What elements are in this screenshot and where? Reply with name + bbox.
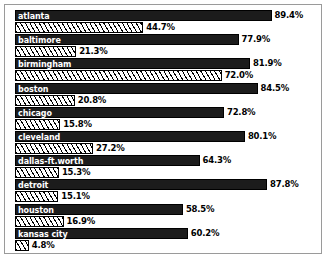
bar-group: boston84.5%20.8% (5, 83, 323, 107)
bar-value-label-hatched: 44.7% (146, 22, 175, 33)
bar-row-hatched: 20.8% (15, 95, 106, 106)
bar-row-hatched: 27.2% (15, 143, 125, 154)
bar-value-label-solid: 80.1% (248, 131, 277, 142)
bar-solid[interactable]: baltimore (15, 34, 239, 45)
category-label: boston (18, 84, 48, 95)
bar-row-hatched: 44.7% (15, 22, 175, 33)
bar-solid[interactable]: kansas city (15, 228, 188, 239)
bar-value-label-solid: 89.4% (275, 10, 304, 21)
bar-value-label-solid: 87.8% (270, 179, 299, 190)
bar-value-label-solid: 72.8% (227, 107, 256, 118)
bar-value-label-hatched: 4.8% (32, 240, 55, 251)
bar-group: atlanta89.4%44.7% (5, 10, 323, 34)
bar-row-solid: detroit87.8% (15, 179, 298, 190)
bar-value-label-hatched: 20.8% (78, 95, 107, 106)
bar-row-hatched: 21.3% (15, 46, 108, 57)
bar-row-solid: birmingham81.9% (15, 58, 282, 69)
bar-chart-plot-area: atlanta89.4%44.7%baltimore77.9%21.3%birm… (5, 5, 323, 255)
bar-row-hatched: 4.8% (15, 240, 55, 251)
bar-hatched[interactable] (15, 119, 60, 130)
bar-group: cleveland80.1%27.2% (5, 131, 323, 155)
bar-hatched[interactable] (15, 216, 64, 227)
bar-solid[interactable]: dallas-ft.worth (15, 155, 200, 166)
bar-solid[interactable]: boston (15, 83, 258, 94)
bar-row-solid: dallas-ft.worth64.3% (15, 155, 231, 166)
category-label: chicago (18, 108, 52, 119)
category-label: cleveland (18, 132, 60, 143)
bar-row-hatched: 72.0% (15, 70, 253, 81)
bar-group: dallas-ft.worth64.3%15.3% (5, 155, 323, 179)
bar-hatched[interactable] (15, 143, 93, 154)
bar-row-solid: baltimore77.9% (15, 34, 270, 45)
category-label: atlanta (18, 11, 50, 22)
chart-frame: atlanta89.4%44.7%baltimore77.9%21.3%birm… (4, 4, 322, 254)
bar-value-label-hatched: 72.0% (225, 70, 254, 81)
bar-solid[interactable]: atlanta (15, 10, 272, 21)
bar-row-hatched: 15.1% (15, 191, 90, 202)
bar-value-label-hatched: 21.3% (79, 46, 108, 57)
bar-row-hatched: 15.8% (15, 119, 92, 130)
category-label: detroit (18, 180, 48, 191)
bar-value-label-solid: 77.9% (242, 34, 271, 45)
category-label: kansas city (18, 229, 68, 240)
bar-row-solid: houston58.5% (15, 204, 214, 215)
bar-group: chicago72.8%15.8% (5, 107, 323, 131)
bar-group: birmingham81.9%72.0% (5, 58, 323, 82)
category-label: houston (18, 205, 54, 216)
bar-hatched[interactable] (15, 167, 59, 178)
bar-value-label-solid: 58.5% (186, 204, 215, 215)
bar-hatched[interactable] (15, 46, 76, 57)
bar-hatched[interactable] (15, 240, 29, 251)
category-label: baltimore (18, 35, 61, 46)
bar-value-label-hatched: 27.2% (96, 143, 125, 154)
bar-value-label-hatched: 15.1% (61, 191, 90, 202)
category-label: birmingham (18, 59, 71, 70)
bar-hatched[interactable] (15, 191, 58, 202)
bar-row-hatched: 16.9% (15, 216, 95, 227)
bar-hatched[interactable] (15, 95, 75, 106)
bar-hatched[interactable] (15, 70, 222, 81)
bar-value-label-hatched: 15.8% (63, 119, 92, 130)
bar-row-solid: kansas city60.2% (15, 228, 219, 239)
bar-row-solid: atlanta89.4% (15, 10, 303, 21)
bar-hatched[interactable] (15, 22, 143, 33)
bar-value-label-solid: 81.9% (253, 58, 282, 69)
bar-group: baltimore77.9%21.3% (5, 34, 323, 58)
bar-group: houston58.5%16.9% (5, 204, 323, 228)
bar-value-label-solid: 60.2% (191, 228, 220, 239)
bar-row-hatched: 15.3% (15, 167, 90, 178)
bar-solid[interactable]: houston (15, 204, 183, 215)
bar-solid[interactable]: birmingham (15, 58, 250, 69)
category-label: dallas-ft.worth (18, 156, 83, 167)
bar-solid[interactable]: cleveland (15, 131, 245, 142)
bar-solid[interactable]: chicago (15, 107, 224, 118)
bar-value-label-solid: 64.3% (203, 155, 232, 166)
bar-solid[interactable]: detroit (15, 179, 267, 190)
bar-group: kansas city60.2%4.8% (5, 228, 323, 252)
bar-row-solid: cleveland80.1% (15, 131, 276, 142)
bar-value-label-solid: 84.5% (261, 83, 290, 94)
bar-row-solid: boston84.5% (15, 83, 289, 94)
bar-group: detroit87.8%15.1% (5, 179, 323, 203)
bar-value-label-hatched: 15.3% (62, 167, 91, 178)
bar-row-solid: chicago72.8% (15, 107, 255, 118)
bar-value-label-hatched: 16.9% (67, 216, 96, 227)
